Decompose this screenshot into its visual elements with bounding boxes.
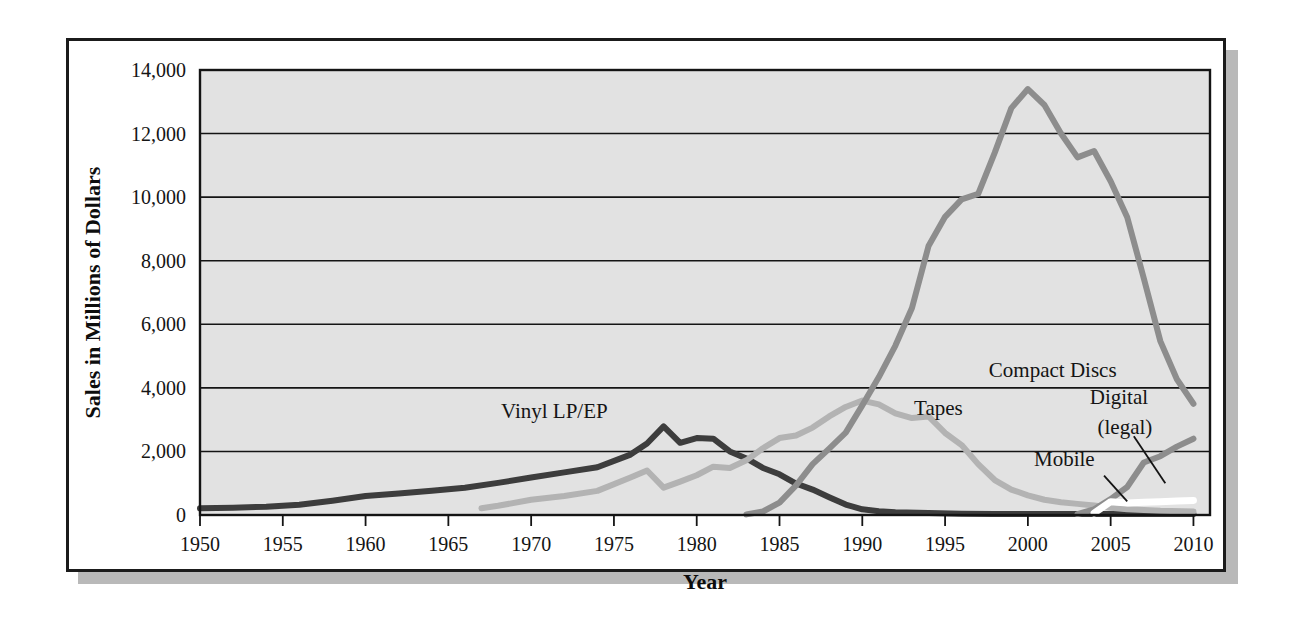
xtick-label-1970: 1970 <box>511 533 551 555</box>
xtick-label-1980: 1980 <box>677 533 717 555</box>
ytick-label-0: 0 <box>176 504 186 526</box>
figure-root: 1950195519601965197019751980198519901995… <box>0 0 1289 635</box>
ytick-label-4,000: 4,000 <box>141 377 186 399</box>
xtick-label-1985: 1985 <box>760 533 800 555</box>
ytick-label-14,000: 14,000 <box>131 59 186 81</box>
ytick-label-6,000: 6,000 <box>141 313 186 335</box>
ytick-label-10,000: 10,000 <box>131 186 186 208</box>
line-chart: 1950195519601965197019751980198519901995… <box>0 0 1289 635</box>
xtick-label-1975: 1975 <box>594 533 634 555</box>
series-label-tapes: Tapes <box>914 396 963 420</box>
ytick-label-2,000: 2,000 <box>141 440 186 462</box>
xtick-label-1955: 1955 <box>263 533 303 555</box>
xtick-label-1995: 1995 <box>925 533 965 555</box>
series-label-mobile: Mobile <box>1034 447 1095 471</box>
series-label-vinyl-lp-ep: Vinyl LP/EP <box>501 399 608 423</box>
ytick-label-12,000: 12,000 <box>131 123 186 145</box>
xtick-label-2005: 2005 <box>1091 533 1131 555</box>
xtick-label-2000: 2000 <box>1008 533 1048 555</box>
xtick-label-1950: 1950 <box>180 533 220 555</box>
series-label-compact-discs: Compact Discs <box>989 358 1117 382</box>
x-axis-title: Year <box>683 569 727 594</box>
series-label-digital-legal-line2: (legal) <box>1098 415 1153 439</box>
y-axis-title: Sales in Millions of Dollars <box>80 166 105 418</box>
xtick-label-1990: 1990 <box>842 533 882 555</box>
xtick-label-1965: 1965 <box>428 533 468 555</box>
series-label-digital-legal: Digital <box>1090 385 1148 409</box>
xtick-label-1960: 1960 <box>346 533 386 555</box>
xtick-label-2010: 2010 <box>1173 533 1213 555</box>
ytick-label-8,000: 8,000 <box>141 250 186 272</box>
